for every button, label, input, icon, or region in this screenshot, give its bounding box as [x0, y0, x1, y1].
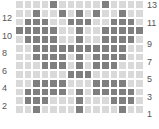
grid-cell [49, 70, 58, 79]
grid-cell [32, 105, 41, 114]
grid-cell [24, 70, 33, 79]
grid-cell [92, 88, 101, 97]
grid-cell [24, 88, 33, 97]
grid-cell [24, 26, 33, 35]
grid-cell [67, 61, 76, 70]
grid-cell [15, 53, 24, 62]
grid-cell [118, 9, 127, 18]
grid-cell [32, 70, 41, 79]
grid-cell [67, 79, 76, 88]
grid-cell [127, 61, 136, 70]
grid-cell [75, 44, 84, 53]
grid-cell [101, 53, 110, 62]
grid-cell [67, 35, 76, 44]
grid-cell [15, 61, 24, 70]
grid-cell [84, 18, 93, 27]
grid-cell [101, 96, 110, 105]
row-label-4: 4 [2, 84, 7, 93]
grid-cell [101, 61, 110, 70]
grid-cell [49, 9, 58, 18]
grid-cell [118, 96, 127, 105]
grid-cell [110, 9, 119, 18]
grid-cell [92, 79, 101, 88]
grid-cell [15, 105, 24, 114]
grid-cell [67, 44, 76, 53]
grid-cell [15, 79, 24, 88]
grid-cell [41, 44, 50, 53]
grid-cell [92, 26, 101, 35]
grid-cell [49, 61, 58, 70]
grid-cell [32, 9, 41, 18]
grid-cell [101, 35, 110, 44]
grid-cell [101, 44, 110, 53]
grid-cell [92, 105, 101, 114]
grid-cell [84, 79, 93, 88]
grid-cell [67, 26, 76, 35]
row-label-11: 11 [147, 19, 156, 28]
row-label-2: 2 [2, 102, 7, 111]
grid-cell [101, 105, 110, 114]
grid-cell [41, 96, 50, 105]
row-label-10: 10 [2, 32, 12, 41]
grid-cell [24, 9, 33, 18]
grid-cell [41, 35, 50, 44]
grid-cell [118, 0, 127, 9]
grid-cell [110, 70, 119, 79]
grid-cell [101, 0, 110, 9]
grid-cell [84, 9, 93, 18]
grid-cell [49, 105, 58, 114]
grid-cell [135, 9, 144, 18]
grid-cell [75, 18, 84, 27]
grid-cell [49, 79, 58, 88]
grid-cell [92, 0, 101, 9]
grid-cell [15, 35, 24, 44]
grid-cell [49, 35, 58, 44]
grid-cell [75, 26, 84, 35]
grid-cell [75, 79, 84, 88]
grid-cell [41, 61, 50, 70]
grid-cell [135, 61, 144, 70]
grid-cell [41, 9, 50, 18]
grid-cell [118, 35, 127, 44]
grid-cell [110, 0, 119, 9]
grid-cell [84, 0, 93, 9]
grid-cell [84, 88, 93, 97]
grid-cell [58, 9, 67, 18]
grid-cell [127, 0, 136, 9]
row-label-6: 6 [2, 67, 7, 76]
grid-cell [135, 96, 144, 105]
grid-cell [110, 18, 119, 27]
grid-cell [49, 88, 58, 97]
grid-cell [58, 61, 67, 70]
grid-cell [15, 44, 24, 53]
grid-cell [15, 88, 24, 97]
grid-cell [41, 0, 50, 9]
grid-cell [127, 88, 136, 97]
grid-cell [135, 53, 144, 62]
grid-cell [101, 70, 110, 79]
grid-cell [92, 35, 101, 44]
grid-cell [58, 0, 67, 9]
grid-cell [135, 70, 144, 79]
row-label-7: 7 [147, 58, 152, 67]
grid-cell [92, 53, 101, 62]
grid-cell [84, 35, 93, 44]
grid-cell [15, 26, 24, 35]
grid-cell [75, 96, 84, 105]
row-label-1: 1 [147, 110, 152, 119]
grid-cell [110, 53, 119, 62]
grid-cell [32, 79, 41, 88]
grid-cell [41, 88, 50, 97]
grid-cell [127, 79, 136, 88]
grid-cell [24, 105, 33, 114]
grid-cell [135, 26, 144, 35]
grid-cell [24, 96, 33, 105]
grid-cell [32, 96, 41, 105]
grid-cell [67, 105, 76, 114]
grid-cell [49, 53, 58, 62]
grid-cell [135, 79, 144, 88]
grid-cell [32, 26, 41, 35]
grid-cell [58, 88, 67, 97]
grid-cell [92, 18, 101, 27]
grid-cell [67, 53, 76, 62]
